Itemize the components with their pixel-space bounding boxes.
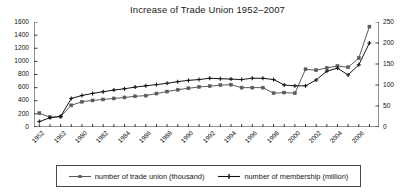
- x-axis-tick-label: 2000: [284, 130, 301, 147]
- data-point-marker: [325, 66, 328, 69]
- data-point-marker: [70, 104, 73, 107]
- left-axis-tick-label: 1200: [0, 45, 29, 52]
- data-point-marker: [198, 85, 201, 88]
- right-axis-tick-label: 0: [383, 124, 387, 131]
- x-axis-tick-label: 1994: [220, 130, 237, 147]
- left-axis-tick-label: 1600: [0, 19, 29, 26]
- chart-legend: number of trade union (thousand)number o…: [56, 165, 361, 187]
- chart-figure: Increase of Trade Union 1952–2007 020040…: [0, 0, 415, 192]
- data-point-marker: [293, 92, 296, 95]
- data-point-marker: [134, 95, 137, 98]
- data-point-marker: [123, 96, 126, 99]
- x-axis-tick-label: 2004: [327, 130, 344, 147]
- right-axis-tick-label: 50: [383, 103, 390, 110]
- x-axis-tick-label: 1992: [199, 130, 216, 147]
- data-point-marker: [347, 66, 350, 69]
- data-point-marker: [229, 83, 232, 86]
- data-point-marker: [304, 68, 307, 71]
- data-point-marker: [240, 86, 243, 89]
- legend-label: number of membership (million): [244, 172, 348, 181]
- left-axis-tick-label: 1000: [0, 58, 29, 65]
- data-point-marker: [272, 92, 275, 95]
- data-point-marker: [357, 57, 360, 60]
- data-point-marker: [38, 112, 41, 115]
- x-axis-tick-label: 1984: [114, 130, 131, 147]
- data-point-marker: [166, 90, 169, 93]
- legend-label: number of trade union (thousand): [95, 172, 205, 181]
- series-line-trade-union: [39, 27, 369, 118]
- left-axis-tick-label: 400: [0, 97, 29, 104]
- x-axis-tick-label: 1986: [135, 130, 152, 147]
- data-point-marker: [368, 25, 371, 28]
- data-point-marker: [80, 100, 83, 103]
- right-axis-tick-label: 150: [383, 61, 394, 68]
- data-point-marker: [208, 85, 211, 88]
- data-point-marker: [283, 91, 286, 94]
- data-point-marker: [315, 69, 318, 72]
- legend-marker-plus-icon: [218, 172, 240, 181]
- x-axis-tick-label: 1996: [242, 130, 259, 147]
- right-axis-tick-label: 100: [383, 82, 394, 89]
- data-point-marker: [102, 98, 105, 101]
- x-axis-tick-label: 1988: [156, 130, 173, 147]
- x-axis-tick-label: 2002: [305, 130, 322, 147]
- right-axis-tick-label: 200: [383, 40, 394, 47]
- x-axis-tick-label: 1982: [92, 130, 109, 147]
- x-axis-tick-label: 1952: [29, 130, 46, 147]
- legend-entry[interactable]: number of membership (million): [218, 172, 348, 181]
- data-point-marker: [176, 88, 179, 91]
- x-axis-tick-label: 1962: [50, 130, 67, 147]
- data-point-marker: [91, 99, 94, 102]
- legend-marker-square-icon: [69, 172, 91, 181]
- data-point-marker: [219, 84, 222, 87]
- legend-entry[interactable]: number of trade union (thousand): [69, 172, 205, 181]
- data-point-marker: [155, 92, 158, 95]
- series-line-membership: [39, 43, 369, 122]
- plot-area: [34, 22, 379, 127]
- left-axis-tick-label: 0: [0, 124, 29, 131]
- x-axis-tick-label: 1990: [178, 130, 195, 147]
- left-axis-tick-label: 1400: [0, 32, 29, 39]
- data-point-marker: [112, 97, 115, 100]
- chart-title: Increase of Trade Union 1952–2007: [0, 4, 415, 15]
- data-point-marker: [187, 87, 190, 90]
- plot-svg: [34, 22, 379, 127]
- data-point-marker: [261, 86, 264, 89]
- data-point-marker: [144, 94, 147, 97]
- left-axis-tick-label: 200: [0, 111, 29, 118]
- left-axis-tick-label: 600: [0, 84, 29, 91]
- x-axis-tick-label: 2006: [348, 130, 365, 147]
- left-axis-tick-label: 800: [0, 71, 29, 78]
- data-point-marker: [251, 86, 254, 89]
- x-axis-tick-label: 1998: [263, 130, 280, 147]
- right-axis-tick-label: 250: [383, 19, 394, 26]
- x-axis-tick-label: 1980: [71, 130, 88, 147]
